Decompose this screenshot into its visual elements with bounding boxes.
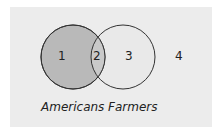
region-2-label: 2 xyxy=(93,49,101,63)
region-3-label: 3 xyxy=(125,49,133,63)
region-4-label: 4 xyxy=(175,49,183,63)
farmers-label: Farmers xyxy=(108,100,157,114)
region-1-label: 1 xyxy=(58,49,66,63)
americans-label: Americans xyxy=(41,100,104,114)
